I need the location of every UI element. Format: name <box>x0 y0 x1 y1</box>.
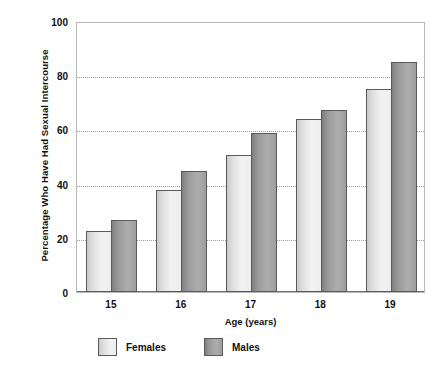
y-axis-tick-label: 0 <box>38 288 68 299</box>
bar-group <box>296 23 347 292</box>
bar-males-age-19 <box>391 62 417 292</box>
bar-males-age-16 <box>181 171 207 292</box>
legend-swatch-females-icon <box>98 338 117 356</box>
plot-area <box>76 22 425 293</box>
y-axis-tick-label: 80 <box>38 71 68 82</box>
y-axis-tick-label: 20 <box>38 233 68 244</box>
legend-label-males: Males <box>232 342 260 353</box>
bar-females-age-18 <box>296 119 322 292</box>
x-axis-tick-label: 16 <box>175 299 186 310</box>
bar-females-age-19 <box>366 89 392 292</box>
bar-males-age-15 <box>111 220 137 292</box>
y-axis-tick-label: 60 <box>38 125 68 136</box>
bar-group <box>366 23 417 292</box>
legend-swatch-males-icon <box>204 338 223 356</box>
legend-item-females: Females <box>98 338 166 356</box>
chart-legend: Females Males <box>76 338 425 356</box>
y-axis-tick-label: 100 <box>38 17 68 28</box>
x-axis-title: Age (years) <box>76 316 425 327</box>
bar-males-age-18 <box>321 110 347 292</box>
y-axis-tick-label: 40 <box>38 179 68 190</box>
bar-chart: Percentage Who Have Had Sexual Intercour… <box>0 0 434 372</box>
bar-group <box>226 23 277 292</box>
bar-females-age-15 <box>86 231 112 292</box>
x-axis-tick-label: 18 <box>315 299 326 310</box>
bar-females-age-16 <box>156 190 182 292</box>
bar-males-age-17 <box>251 133 277 292</box>
y-axis-tick-labels: 020406080100 <box>38 0 68 372</box>
legend-label-females: Females <box>126 342 166 353</box>
legend-item-males: Males <box>204 338 260 356</box>
bar-females-age-17 <box>226 155 252 292</box>
x-axis-tick-label: 15 <box>105 299 116 310</box>
bar-group <box>86 23 137 292</box>
x-axis-tick-label: 17 <box>245 299 256 310</box>
bar-group <box>156 23 207 292</box>
x-axis-tick-label: 19 <box>385 299 396 310</box>
